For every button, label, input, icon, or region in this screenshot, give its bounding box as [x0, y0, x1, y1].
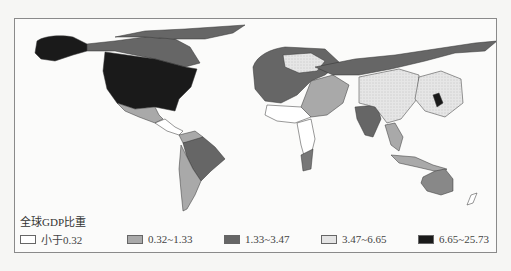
legend-item-0-32-1-33: 0.32~1.33	[127, 232, 192, 246]
region-new-zealand	[467, 193, 477, 205]
legend-item-1-33-3-47: 1.33~3.47	[224, 232, 289, 246]
region-russia	[315, 41, 496, 75]
legend-title: 全球GDP比重	[20, 213, 86, 229]
legend-label: 小于0.32	[41, 231, 82, 247]
legend-label: 3.47~6.65	[342, 233, 386, 245]
region-australia	[421, 169, 453, 195]
region-central-america	[155, 119, 183, 135]
legend-swatch-light-gray	[127, 235, 143, 244]
region-southeast-asia	[385, 123, 403, 151]
legend-item-6-65-25-73: 6.65~25.73	[418, 232, 489, 246]
legend-swatch-dark-gray	[224, 235, 240, 244]
legend-swatch-white	[20, 235, 36, 244]
region-arctic-islands	[115, 25, 245, 39]
legend-swatch-hatched	[321, 235, 337, 244]
region-alaska	[35, 36, 87, 61]
map-frame: 全球GDP比重 小于0.32 0.32~1.33 1.33~3.47 3.47~…	[14, 18, 497, 253]
region-south-africa	[301, 149, 313, 171]
legend-swatch-black	[418, 235, 434, 244]
legend-label: 1.33~3.47	[245, 233, 289, 245]
legend-item-lt-0-32: 小于0.32	[20, 232, 82, 246]
world-gdp-cartogram	[15, 19, 496, 252]
legend-label: 6.65~25.73	[439, 233, 489, 245]
legend-label: 0.32~1.33	[148, 233, 192, 245]
legend-item-3-47-6-65: 3.47~6.65	[321, 232, 386, 246]
legend: 小于0.32 0.32~1.33 1.33~3.47 3.47~6.65 6.6…	[20, 232, 495, 246]
